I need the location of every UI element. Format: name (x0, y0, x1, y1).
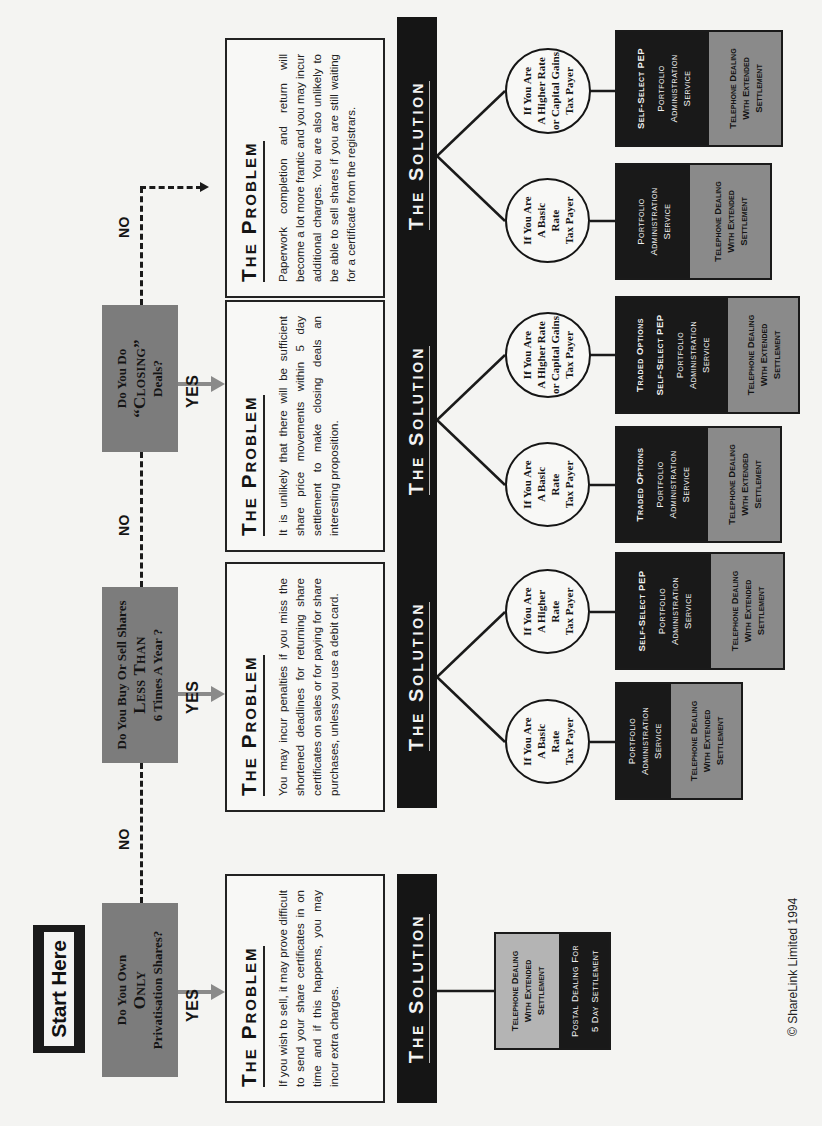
condition-higher-rate-capital-gains: If You AreA Higher Rateor Capital GainsT… (505, 312, 591, 398)
telephone-dealing: Telephone DealingWith ExtendedSettlement (708, 428, 780, 541)
condition-higher-rate: If You AreA HigherRateTax Payer (505, 569, 590, 654)
solution-box-col2-basic: PortfolioAdministrationService Telephone… (615, 682, 743, 800)
services: PortfolioAdministrationService (617, 165, 690, 278)
services: Self-Select PEP PortfolioAdministrationS… (617, 32, 709, 145)
telephone-dealing: Telephone DealingWith ExtendedSettlement (496, 934, 559, 1048)
condition-basic-rate: If You AreA BasicRateTax Payer (505, 442, 590, 527)
services: PortfolioAdministrationService (617, 684, 671, 798)
telephone-dealing: Telephone DealingWith ExtendedSettlement (728, 298, 798, 412)
services: Traded Options PortfolioAdministrationSe… (617, 428, 708, 541)
solution-box-col2-higher: Self-Select PEP PortfolioAdministrationS… (615, 552, 785, 670)
condition-basic-rate: If You AreA BasicRateTax Payer (505, 699, 590, 784)
copyright-notice: © ShareLink Limited 1994 (786, 898, 800, 1036)
services: Traded Options Self-Select PEP Portfolio… (617, 298, 728, 412)
condition-higher-rate-capital-gains: If You AreA Higher Rateor Capital GainsT… (505, 48, 591, 134)
solution-box-col4-basic: PortfolioAdministrationService Telephone… (615, 163, 772, 280)
services: Self-Select PEP PortfolioAdministrationS… (617, 554, 711, 668)
condition-basic-rate: If You AreA BasicRateTax Payer (505, 178, 590, 263)
flowchart-page: Start Here Do You Own Only Privatisation… (0, 0, 822, 1126)
telephone-dealing: Telephone DealingWith ExtendedSettlement (711, 554, 783, 668)
solution-box-col1: Telephone DealingWith ExtendedSettlement… (494, 932, 611, 1050)
solution-box-col3-higher: Traded Options Self-Select PEP Portfolio… (615, 296, 800, 414)
solution-box-col3-basic: Traded Options PortfolioAdministrationSe… (615, 426, 782, 543)
solution-box-col4-higher: Self-Select PEP PortfolioAdministrationS… (615, 30, 783, 147)
telephone-dealing: Telephone DealingWith ExtendedSettlement (709, 32, 781, 145)
telephone-dealing: Telephone DealingWith ExtendedSettlement (671, 684, 741, 798)
telephone-dealing: Telephone DealingWith ExtendedSettlement (690, 165, 770, 278)
postal-dealing: Postal Dealing For5 Day Settlement (559, 934, 609, 1048)
